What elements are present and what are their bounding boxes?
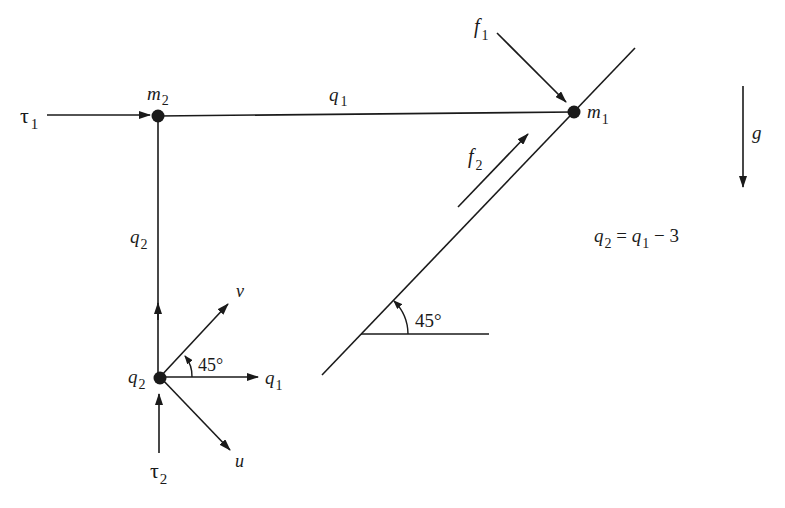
link-q1: [158, 112, 574, 116]
incline-angle-arc: [394, 301, 408, 334]
f1-label: f1: [474, 15, 489, 43]
gravity-label: g: [752, 122, 762, 143]
origin-dot: [154, 372, 167, 385]
origin-angle-arc: [185, 356, 192, 377]
u-axis-label: u: [235, 451, 244, 471]
incline-angle-label: 45°: [415, 310, 442, 331]
tau1-label: τ1: [20, 103, 38, 132]
q1-link-label: q1: [329, 84, 348, 109]
mass-m1-dot: [568, 106, 581, 119]
v-axis-label: v: [236, 281, 244, 301]
mass-m2-dot: [152, 110, 165, 123]
q2-origin-label: q2: [128, 366, 146, 392]
inclined-rail: [322, 48, 635, 375]
q1-axis-label: q1: [265, 367, 283, 393]
origin-angle-label: 45°: [198, 355, 223, 375]
m2-label: m2: [147, 83, 169, 108]
u-axis-arrow: [160, 377, 230, 450]
mechanism-diagram: τ1 m2 q1 m1 f1 f2 g q2 = q1 − 3 q2 45° v…: [0, 0, 785, 508]
constraint-equation: q2 = q1 − 3: [594, 225, 679, 251]
f2-label: f2: [468, 145, 483, 173]
q2-link-label: q2: [130, 226, 148, 252]
tau2-label: τ2: [150, 458, 167, 487]
f1-arrow: [497, 33, 566, 102]
m1-label: m1: [587, 101, 609, 127]
